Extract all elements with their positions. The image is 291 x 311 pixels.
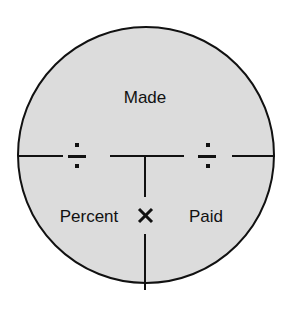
label-paid: Paid	[189, 207, 223, 226]
formula-circle-diagram: Made Percent Paid	[0, 0, 291, 311]
label-percent: Percent	[60, 207, 119, 226]
label-made: Made	[124, 88, 167, 107]
